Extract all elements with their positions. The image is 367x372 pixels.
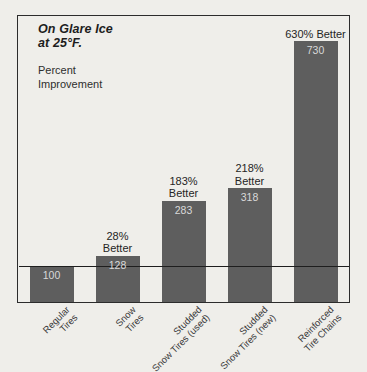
category-label: SnowTires	[113, 304, 145, 336]
plot-area: 10012828%Better283183%Better318218%Bette…	[19, 17, 349, 302]
bars-layer: 10012828%Better283183%Better318218%Bette…	[19, 17, 349, 302]
bar-group: 730630% Better	[294, 17, 338, 302]
bar-annotation: 28%Better	[80, 230, 156, 255]
bar-chart: On Glare Ice at 25°F. Percent Improvemen…	[0, 0, 367, 372]
bar-value-label: 100	[30, 269, 74, 281]
bar-annotation-line-1: 28%	[80, 230, 156, 243]
bar-group: 318218%Better	[228, 17, 272, 302]
bar-group: 100	[30, 17, 74, 302]
bar-annotation-line-1: 218%	[212, 162, 288, 175]
bar-value-label: 318	[228, 191, 272, 203]
bar-annotation-line-1: 630% Better	[278, 28, 354, 41]
category-label: StuddedSnow Tires (new)	[210, 304, 277, 371]
bar	[294, 41, 338, 301]
baseline-reference-line	[19, 266, 349, 267]
bar-annotation: 183%Better	[146, 175, 222, 200]
category-label: StuddedSnow Tires (used)	[142, 304, 212, 372]
bar-value-label: 283	[162, 204, 206, 216]
bar-value-label: 730	[294, 44, 338, 56]
bar-annotation-line-1: 183%	[146, 175, 222, 188]
bar-annotation-line-2: Better	[212, 175, 288, 188]
bar-value-label: 128	[96, 259, 140, 271]
bar	[162, 201, 206, 302]
bar-annotation: 218%Better	[212, 162, 288, 187]
bar-group: 12828%Better	[96, 17, 140, 302]
bar-annotation-line-2: Better	[146, 187, 222, 200]
bar-annotation-line-2: Better	[80, 242, 156, 255]
category-axis-labels: RegularTiresSnowTiresStuddedSnow Tires (…	[19, 304, 349, 372]
bar-annotation: 630% Better	[278, 28, 354, 41]
bar-group: 283183%Better	[162, 17, 206, 302]
category-label: RegularTires	[40, 304, 79, 343]
category-label: ReinforcedTire Chains	[294, 304, 344, 354]
bar	[228, 188, 272, 301]
